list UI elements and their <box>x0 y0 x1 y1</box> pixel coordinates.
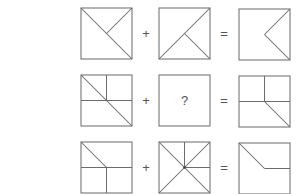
row3-operand-a-tile <box>81 142 132 193</box>
row2-unknown-tile[interactable]: ? <box>159 75 210 126</box>
equals-operator: = <box>217 94 231 108</box>
grid-diagonal-pattern-icon <box>81 75 132 126</box>
bent-line-pattern-icon <box>239 143 290 194</box>
equals-operator: = <box>217 161 231 175</box>
row1-operand-b-tile <box>159 8 210 59</box>
row2-operand-a-tile <box>81 75 132 126</box>
question-mark: ? <box>159 75 210 126</box>
row1-operand-a-tile <box>81 8 132 59</box>
grid-diagonal-pattern-icon <box>81 142 132 193</box>
row3-result-tile <box>239 143 290 194</box>
plus-operator: + <box>139 94 153 108</box>
diagonal-pattern-icon <box>159 8 210 59</box>
star-pattern-icon <box>159 142 210 193</box>
plus-operator: + <box>139 161 153 175</box>
equals-operator: = <box>217 27 231 41</box>
plus-operator: + <box>139 27 153 41</box>
chevron-pattern-icon <box>239 9 290 60</box>
row1-result-tile <box>239 9 290 60</box>
diagonal-pattern-icon <box>81 8 132 59</box>
row3-operand-b-tile <box>159 142 210 193</box>
grid-partial-diagonal-pattern-icon <box>239 76 290 127</box>
row2-result-tile <box>239 76 290 127</box>
